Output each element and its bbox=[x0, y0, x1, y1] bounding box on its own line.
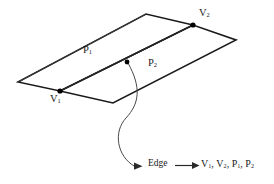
annotation-entity-label: Edge bbox=[148, 159, 168, 169]
component-p2: P2 bbox=[245, 158, 254, 169]
vertex-marker-v1 bbox=[57, 88, 62, 93]
edge-midpoint-marker bbox=[125, 60, 130, 65]
component-v1-subscript: 1 bbox=[208, 162, 211, 169]
vertex-label-v2-base: V bbox=[199, 7, 207, 18]
leader-arrowhead-icon bbox=[134, 163, 143, 170]
relation-arrowhead-icon bbox=[192, 162, 200, 169]
face-label-p1-subscript: 1 bbox=[89, 48, 92, 55]
face-label-p2-base: P bbox=[148, 57, 154, 68]
vertex-label-v1: V1 bbox=[50, 94, 61, 105]
vertex-marker-v2 bbox=[190, 22, 195, 27]
annotation-component-list: V1, V2, P1, P2 bbox=[201, 159, 254, 169]
vertex-label-v2-subscript: 2 bbox=[207, 11, 210, 18]
vertex-label-v2: V2 bbox=[199, 8, 210, 19]
vertex-label-v1-subscript: 1 bbox=[58, 97, 61, 104]
component-v2: V2 bbox=[216, 158, 226, 169]
vertex-label-v1-base: V bbox=[50, 93, 58, 104]
component-p1-subscript: 1 bbox=[237, 162, 240, 169]
component-v2-base: V bbox=[216, 158, 223, 169]
diagram-canvas bbox=[0, 0, 274, 184]
face-p1-top-edge-highlight bbox=[18, 14, 146, 82]
component-p1: P1 bbox=[232, 158, 241, 169]
face-label-p2-subscript: 2 bbox=[154, 61, 157, 68]
edge-topology-diagram: V1 V2 P1 P2 Edge V1, V2, P1, P2 bbox=[0, 0, 274, 184]
component-v2-subscript: 2 bbox=[224, 162, 227, 169]
leader-curve bbox=[118, 63, 137, 166]
face-label-p1-base: P bbox=[83, 44, 89, 55]
shared-edge-v1-v2 bbox=[60, 25, 193, 91]
face-p1-outline bbox=[18, 14, 193, 91]
component-v1: V1 bbox=[201, 158, 211, 169]
face-label-p2: P2 bbox=[148, 58, 157, 69]
face-label-p1: P1 bbox=[83, 45, 92, 56]
component-p2-subscript: 2 bbox=[251, 162, 254, 169]
